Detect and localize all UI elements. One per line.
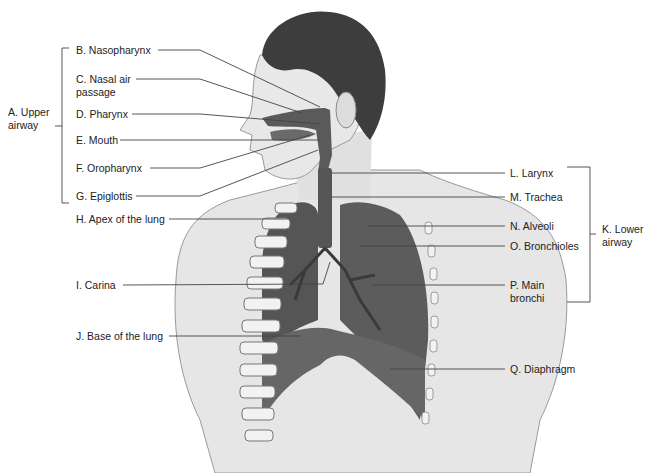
label-pharynx: D. Pharynx bbox=[76, 108, 128, 121]
label-diaphragm: Q. Diaphragm bbox=[510, 363, 575, 376]
lower-airway-bracket bbox=[567, 167, 596, 302]
label-main-bronchi: P. Main bronchi bbox=[510, 279, 544, 304]
label-nasopharynx: B. Nasopharynx bbox=[76, 44, 151, 57]
label-trachea: M. Trachea bbox=[510, 191, 563, 204]
label-larynx: L. Larynx bbox=[510, 167, 553, 180]
label-carina: I. Carina bbox=[76, 279, 116, 292]
respiratory-illustration bbox=[0, 0, 653, 473]
label-mouth: E. Mouth bbox=[76, 134, 118, 147]
ear bbox=[336, 92, 356, 128]
label-nasal-air-passage: C. Nasal air passage bbox=[76, 73, 131, 98]
label-upper-airway: A. Upper airway bbox=[8, 106, 49, 131]
label-base-of-lung: J. Base of the lung bbox=[76, 330, 163, 343]
upper-airway-bracket bbox=[55, 48, 69, 203]
label-alveoli: N. Alveoli bbox=[510, 220, 554, 233]
label-oropharynx: F. Oropharynx bbox=[76, 162, 142, 175]
label-apex-of-lung: H. Apex of the lung bbox=[76, 213, 165, 226]
trachea-shape bbox=[318, 168, 332, 248]
label-epiglottis: G. Epiglottis bbox=[76, 190, 133, 203]
label-bronchioles: O. Bronchioles bbox=[510, 240, 579, 253]
label-lower-airway: K. Lower airway bbox=[602, 223, 643, 248]
